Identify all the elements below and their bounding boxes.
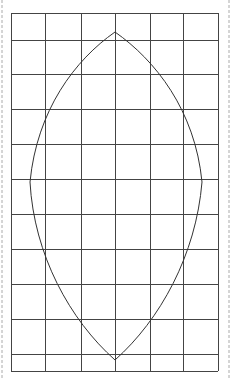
grid <box>11 13 219 372</box>
grid-diagram <box>0 0 233 378</box>
